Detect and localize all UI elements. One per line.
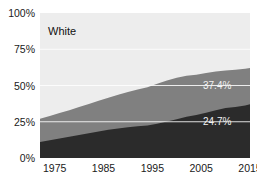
x-tick-label: 1975	[43, 162, 67, 174]
y-tick-label: 0%	[20, 152, 35, 164]
chart-canvas: 0%25%50%75%100% 19751985199520052015 Whi…	[0, 0, 257, 191]
y-tick-label: 25%	[14, 116, 35, 128]
y-tick-label: 75%	[14, 43, 35, 55]
x-axis-tick-labels: 19751985199520052015	[43, 162, 257, 174]
y-tick-label: 100%	[8, 7, 35, 19]
y-tick-label: 50%	[14, 80, 35, 92]
x-tick-label: 2005	[189, 162, 213, 174]
annotation-upper-value: 37.4%	[203, 80, 231, 91]
x-tick-label: 2015	[238, 162, 257, 174]
x-tick-label: 1985	[92, 162, 116, 174]
x-tick-label: 1995	[141, 162, 165, 174]
annotation-lower-value: 24.7%	[203, 116, 231, 127]
plot-title: White	[48, 25, 76, 37]
stacked-area-chart: 0%25%50%75%100% 19751985199520052015 Whi…	[0, 0, 257, 191]
y-axis-tick-labels: 0%25%50%75%100%	[8, 7, 35, 164]
